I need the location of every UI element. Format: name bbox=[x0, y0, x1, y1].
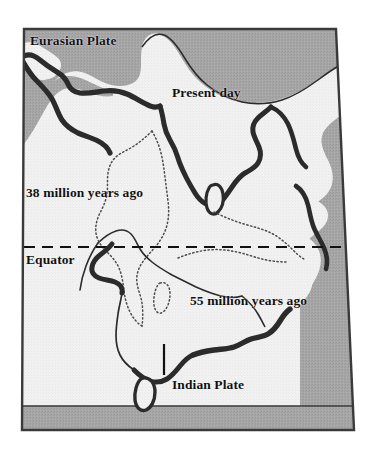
sri-lanka-indian-plate bbox=[135, 378, 155, 411]
label-55-million-years-ago: 55 million years ago bbox=[190, 293, 307, 309]
label-indian-plate: Indian Plate bbox=[172, 377, 244, 393]
label-present-day: Present day bbox=[172, 85, 241, 101]
label-38-million-years-ago: 38 million years ago bbox=[26, 185, 143, 201]
drift-map-figure: Eurasian Plate Present day 38 million ye… bbox=[0, 0, 372, 457]
label-eurasian-plate: Eurasian Plate bbox=[30, 33, 117, 49]
sri-lanka-present-day bbox=[206, 184, 223, 214]
label-equator: Equator bbox=[26, 252, 75, 268]
